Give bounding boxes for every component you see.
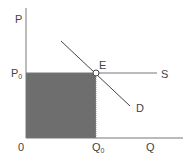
price-label-main: P: [11, 67, 18, 79]
origin-label: 0: [18, 141, 24, 153]
demand-label: D: [136, 102, 144, 114]
x-axis-label: Q: [146, 141, 155, 153]
price-label: P0: [11, 67, 22, 80]
quantity-label: Q0: [92, 141, 105, 154]
y-axis-label: P: [15, 13, 22, 25]
equilibrium-label: E: [99, 59, 106, 71]
quantity-label-sub: 0: [101, 147, 105, 154]
shaded-area: [26, 73, 96, 138]
price-label-sub: 0: [18, 73, 22, 80]
supply-demand-diagram: P P0 E S D 0 Q0 Q: [0, 0, 187, 164]
supply-label: S: [161, 68, 168, 80]
